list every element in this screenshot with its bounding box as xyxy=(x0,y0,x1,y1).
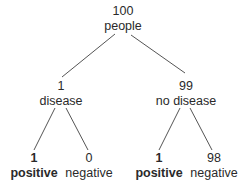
edge-right-negative xyxy=(190,108,212,150)
disease-negative-label: negative xyxy=(65,166,112,180)
root-label: people xyxy=(104,19,142,33)
no-disease-positive-count: 1 xyxy=(156,151,163,165)
edge-left-negative xyxy=(66,108,88,150)
no-disease-negative-count: 98 xyxy=(207,151,221,165)
edge-right-positive xyxy=(159,108,180,150)
disease-count: 1 xyxy=(58,79,65,93)
disease-label: disease xyxy=(39,94,82,108)
no-disease-count: 99 xyxy=(179,79,193,93)
disease-positive-count: 1 xyxy=(31,151,38,165)
no-disease-label: no disease xyxy=(156,94,216,108)
root-count: 100 xyxy=(113,4,134,18)
edge-root-left xyxy=(62,34,115,77)
edge-root-right xyxy=(131,35,185,73)
disease-negative-count: 0 xyxy=(86,151,93,165)
disease-positive-label: positive xyxy=(10,166,57,180)
no-disease-negative-label: negative xyxy=(190,166,237,180)
no-disease-positive-label: positive xyxy=(135,166,182,180)
edge-left-positive xyxy=(34,108,55,150)
